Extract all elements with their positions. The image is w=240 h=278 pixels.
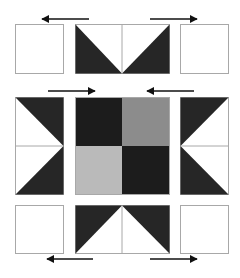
patch-dark	[75, 97, 122, 146]
top-row	[16, 19, 229, 74]
patch-light	[75, 146, 122, 195]
quilt-assembly-diagram	[0, 0, 240, 278]
plain-square-bottom-left	[16, 206, 64, 254]
flying-geese-right-side	[181, 98, 229, 195]
middle-row	[16, 91, 229, 195]
flying-geese-left-side	[16, 98, 64, 195]
patch-dark	[122, 146, 170, 195]
bottom-row	[16, 206, 229, 260]
flying-geese-bottom	[76, 206, 170, 254]
plain-square-bottom-right	[181, 206, 229, 254]
flying-geese-top	[76, 25, 170, 74]
patch-medium	[122, 97, 170, 146]
four-patch-center	[75, 97, 170, 195]
plain-square-top-left	[16, 25, 64, 74]
plain-square-top-right	[181, 25, 229, 74]
